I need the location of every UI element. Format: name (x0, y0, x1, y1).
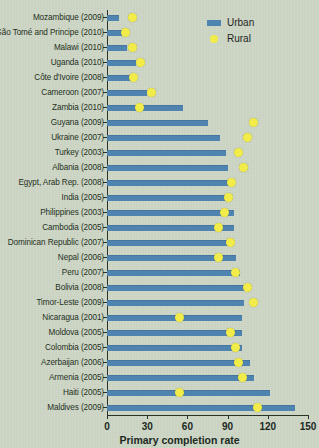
category-label: Bolivia (2008) (0, 281, 104, 295)
category-label: Côte d'Ivoire (2008) (0, 71, 104, 85)
chart-row: Colombia (2005) (0, 341, 319, 355)
urban-bar (107, 150, 226, 156)
urban-bar (107, 195, 230, 201)
urban-bar (107, 330, 242, 336)
chart-row: Maldives (2009) (0, 401, 319, 415)
x-axis-tick (308, 415, 309, 419)
legend-dot-swatch-icon (210, 35, 218, 43)
rural-dot (249, 118, 258, 127)
chart-row: Egypt, Arab Rep. (2008) (0, 176, 319, 190)
chart-row: Turkey (2003) (0, 146, 319, 160)
category-label: Cameroon (2007) (0, 86, 104, 100)
category-label: Colombia (2005) (0, 341, 104, 355)
chart-row: Cameroon (2007) (0, 86, 319, 100)
category-label: Azerbaijan (2006) (0, 356, 104, 370)
rural-dot (175, 388, 184, 397)
x-axis-tick (147, 415, 148, 419)
rural-dot (224, 193, 233, 202)
urban-bar (107, 345, 242, 351)
rural-dot (239, 163, 248, 172)
chart-row: Albania (2008) (0, 161, 319, 175)
chart-row: Bolivia (2008) (0, 281, 319, 295)
urban-bar (107, 120, 208, 126)
rural-dot (135, 103, 144, 112)
rural-dot (175, 313, 184, 322)
x-axis-tick-label: 60 (182, 421, 193, 432)
category-label: Cambodia (2005) (0, 221, 104, 235)
rural-dot (147, 88, 156, 97)
urban-bar (107, 405, 295, 411)
rural-dot (227, 178, 236, 187)
rural-dot (234, 148, 243, 157)
category-label: Philippines (2003) (0, 206, 104, 220)
rural-dot (243, 133, 252, 142)
rural-dot (214, 253, 223, 262)
x-axis-title: Primary completion rate (0, 434, 319, 446)
x-axis-tick-label: 150 (300, 421, 317, 432)
rural-dot (249, 298, 258, 307)
x-axis-tick (268, 415, 269, 419)
category-label: Turkey (2003) (0, 146, 104, 160)
category-label: India (2005) (0, 191, 104, 205)
x-axis-tick-label: 30 (142, 421, 153, 432)
x-axis-tick-label: 120 (259, 421, 276, 432)
urban-bar (107, 135, 220, 141)
chart-plot-area: Mozambique (2009)São Tomé and Principe (… (0, 0, 319, 448)
rural-dot (220, 208, 229, 217)
category-label: Haiti (2005) (0, 386, 104, 400)
category-label: Egypt, Arab Rep. (2008) (0, 176, 104, 190)
x-axis-tick-label: 0 (104, 421, 110, 432)
x-axis-line (107, 415, 308, 416)
chart-row: Timor-Leste (2009) (0, 296, 319, 310)
x-axis-tick (187, 415, 188, 419)
legend-bar-swatch-icon (207, 20, 221, 26)
category-label: Albania (2008) (0, 161, 104, 175)
urban-bar (107, 180, 233, 186)
chart-row: Nepal (2006) (0, 251, 319, 265)
rural-dot (231, 268, 240, 277)
urban-bar (107, 270, 240, 276)
category-label: Guyana (2009) (0, 116, 104, 130)
x-axis-tick (228, 415, 229, 419)
category-label: Dominican Republic (2007) (0, 236, 104, 250)
rural-dot (121, 28, 130, 37)
rural-dot (214, 223, 223, 232)
legend-item-rural: Rural (207, 32, 302, 46)
urban-bar (107, 360, 250, 366)
urban-bar (107, 15, 119, 21)
urban-bar (107, 45, 127, 51)
urban-bar (107, 240, 234, 246)
category-label: Moldova (2005) (0, 326, 104, 340)
chart-row: Nicaragua (2001) (0, 311, 319, 325)
legend-item-urban: Urban (207, 16, 302, 30)
category-label: Maldives (2009) (0, 401, 104, 415)
chart-row: Côte d'Ivoire (2008) (0, 71, 319, 85)
rural-dot (234, 358, 243, 367)
chart-row: Cambodia (2005) (0, 221, 319, 235)
rural-dot (128, 13, 137, 22)
category-label: Nepal (2006) (0, 251, 104, 265)
legend-label-urban: Urban (227, 16, 254, 30)
legend-label-rural: Rural (227, 32, 251, 46)
chart-row: Zambia (2010) (0, 101, 319, 115)
rural-dot (136, 58, 145, 67)
category-label: Malawi (2010) (0, 41, 104, 55)
urban-bar (107, 30, 122, 36)
category-label: Peru (2007) (0, 266, 104, 280)
rural-dot (231, 343, 240, 352)
urban-bar (107, 375, 254, 381)
category-label: Timor-Leste (2009) (0, 296, 104, 310)
chart-row: Azerbaijan (2006) (0, 356, 319, 370)
category-label: Mozambique (2009) (0, 11, 104, 25)
rural-dot (243, 283, 252, 292)
chart-row: Dominican Republic (2007) (0, 236, 319, 250)
chart-row: Ukraine (2007) (0, 131, 319, 145)
chart-row: India (2005) (0, 191, 319, 205)
chart-row: Uganda (2010) (0, 56, 319, 70)
rural-dot (128, 43, 137, 52)
x-axis-tick (107, 415, 108, 419)
category-label: Armenia (2005) (0, 371, 104, 385)
category-label: São Tomé and Principe (2010) (0, 26, 104, 40)
category-label: Nicaragua (2001) (0, 311, 104, 325)
rural-dot (129, 73, 138, 82)
